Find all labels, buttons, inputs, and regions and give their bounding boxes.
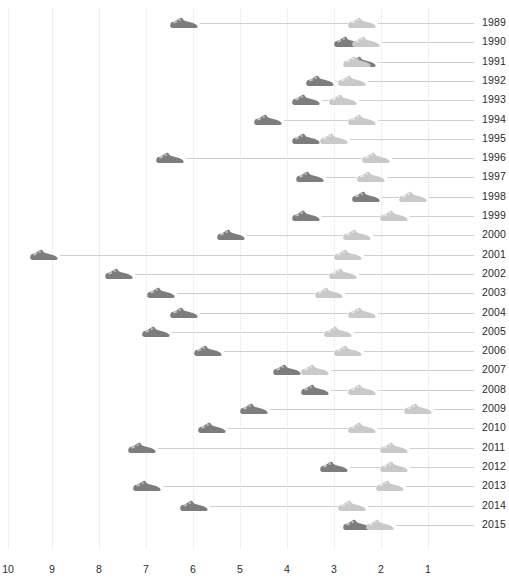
- sneaker-icon-light: [352, 35, 382, 49]
- sneaker-icon-light: [320, 132, 350, 146]
- chart-row: [0, 226, 509, 245]
- sneaker-icon-dark: [170, 306, 200, 320]
- row-tail-line: [410, 448, 474, 449]
- sneaker-icon-dark: [180, 499, 210, 513]
- chart-row: [0, 497, 509, 516]
- sneaker-icon-dark: [301, 383, 331, 397]
- sneaker-icon-dark: [170, 16, 200, 30]
- sneaker-icon-light: [348, 306, 378, 320]
- chart-row: [0, 304, 509, 323]
- sneaker-icon-dark: [128, 441, 158, 455]
- row-tail-line: [406, 486, 474, 487]
- sneaker-icon-dark: [352, 190, 382, 204]
- year-label-1989: 1989: [482, 16, 506, 28]
- x-tick-label-7: 7: [143, 563, 149, 575]
- x-tick-label-9: 9: [49, 563, 55, 575]
- sneaker-icon-dark: [198, 421, 228, 435]
- row-tail-line: [364, 351, 474, 352]
- row-tail-line: [373, 235, 474, 236]
- sneaker-icon-dark: [292, 132, 322, 146]
- chart-row: [0, 516, 509, 535]
- connector-line: [60, 255, 333, 256]
- row-tail-line: [434, 409, 474, 410]
- sneaker-icon-dark: [273, 363, 303, 377]
- chart-row: [0, 33, 509, 52]
- chart-row: [0, 419, 509, 438]
- x-tick-label-10: 10: [2, 563, 14, 575]
- sneaker-icon-dark: [217, 228, 247, 242]
- sneaker-icon-light: [334, 344, 364, 358]
- row-tail-line: [378, 62, 474, 63]
- sneaker-icon-dark: [105, 267, 135, 281]
- year-label-2004: 2004: [482, 306, 506, 318]
- row-tail-line: [354, 332, 474, 333]
- sneaker-icon-light: [366, 518, 396, 532]
- row-tail-line: [331, 370, 474, 371]
- sneaker-icon-dark: [194, 344, 224, 358]
- sneaker-icon-dark: [320, 460, 350, 474]
- year-label-2005: 2005: [482, 325, 506, 337]
- connector-line: [326, 177, 357, 178]
- connector-line: [382, 197, 399, 198]
- connector-line: [270, 409, 403, 410]
- row-tail-line: [364, 255, 474, 256]
- sneaker-icon-light: [329, 267, 359, 281]
- year-label-2014: 2014: [482, 499, 506, 511]
- row-tail-line: [378, 23, 474, 24]
- sneaker-icon-light: [343, 228, 373, 242]
- connector-line: [350, 467, 381, 468]
- sneaker-icon-dark: [292, 209, 322, 223]
- sneaker-icon-dark: [240, 402, 270, 416]
- sneaker-icon-light: [380, 209, 410, 223]
- chart-row: [0, 188, 509, 207]
- year-label-2001: 2001: [482, 248, 506, 260]
- sneaker-icon-light: [348, 383, 378, 397]
- row-tail-line: [368, 81, 474, 82]
- row-tail-line: [378, 390, 474, 391]
- chart-row: [0, 72, 509, 91]
- connector-line: [163, 486, 376, 487]
- row-tail-line: [368, 506, 474, 507]
- x-tick-label-1: 1: [425, 563, 431, 575]
- x-tick-label-2: 2: [378, 563, 384, 575]
- connector-line: [158, 448, 380, 449]
- sneaker-icon-dark: [147, 286, 177, 300]
- connector-line: [177, 293, 315, 294]
- chart-row: [0, 284, 509, 303]
- sneaker-icon-light: [338, 74, 368, 88]
- sneaker-icon-light: [343, 55, 373, 69]
- connector-line: [228, 428, 347, 429]
- sneaker-icon-dark: [133, 479, 163, 493]
- x-tick-label-6: 6: [190, 563, 196, 575]
- year-label-2009: 2009: [482, 402, 506, 414]
- row-tail-line: [350, 139, 474, 140]
- x-tick-label-3: 3: [331, 563, 337, 575]
- chart-row: [0, 265, 509, 284]
- sneaker-icon-dark: [30, 248, 60, 262]
- sneaker-icon-light: [348, 421, 378, 435]
- sneaker-icon-light: [376, 479, 406, 493]
- year-label-2010: 2010: [482, 421, 506, 433]
- row-tail-line: [429, 197, 474, 198]
- sneaker-icon-dark: [292, 93, 322, 107]
- year-label-1996: 1996: [482, 151, 506, 163]
- sneaker-icon-light: [338, 499, 368, 513]
- row-tail-line: [392, 158, 474, 159]
- year-label-2000: 2000: [482, 228, 506, 240]
- year-label-1992: 1992: [482, 74, 506, 86]
- row-tail-line: [345, 293, 474, 294]
- sneaker-icon-light: [315, 286, 345, 300]
- row-tail-line: [410, 467, 474, 468]
- sneaker-icon-light: [301, 363, 331, 377]
- year-label-1995: 1995: [482, 132, 506, 144]
- sneaker-icon-dark: [254, 113, 284, 127]
- chart-row: [0, 111, 509, 130]
- chart-row: [0, 400, 509, 419]
- chart-row: [0, 342, 509, 361]
- row-tail-line: [359, 100, 474, 101]
- row-tail-line: [396, 525, 474, 526]
- year-label-1998: 1998: [482, 190, 506, 202]
- year-label-1999: 1999: [482, 209, 506, 221]
- connector-line: [331, 390, 348, 391]
- connector-line: [322, 216, 381, 217]
